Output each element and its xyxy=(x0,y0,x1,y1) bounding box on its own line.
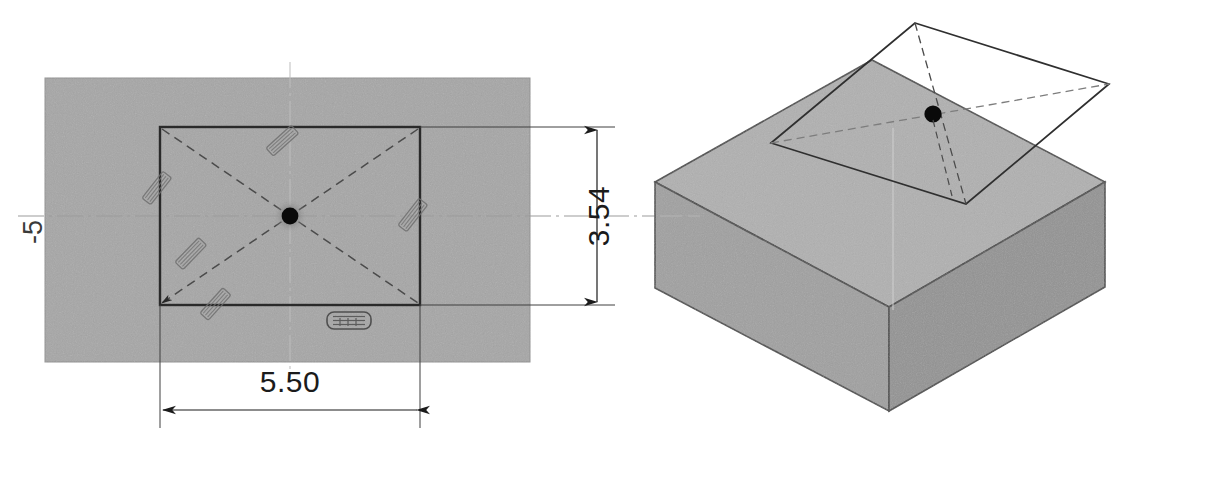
technical-drawing-svg: 3.54 5.50 -5 xyxy=(0,0,1221,484)
dimension-value-horizontal: 5.50 xyxy=(260,365,320,398)
datum-label: -5 xyxy=(18,220,48,244)
drawing-canvas: 3.54 5.50 -5 xyxy=(0,0,1221,484)
center-hole-marker xyxy=(282,208,299,225)
dimension-value-vertical: 3.54 xyxy=(582,186,615,246)
